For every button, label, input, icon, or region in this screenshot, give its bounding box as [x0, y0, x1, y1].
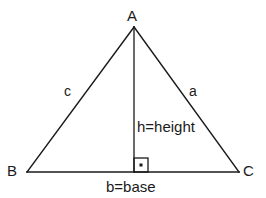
triangle-diagram: A B C c a h=height b=base — [0, 0, 266, 198]
triangle-side-a-line — [134, 27, 239, 172]
triangle-diagram-canvas — [0, 0, 266, 198]
side-label-a: a — [189, 84, 197, 98]
vertex-label-a: A — [127, 8, 137, 23]
height-label: h=height — [137, 119, 195, 134]
right-angle-marker-dot — [140, 164, 143, 167]
triangle-side-c-line — [27, 27, 134, 172]
vertex-label-b: B — [7, 163, 17, 178]
vertex-label-c: C — [243, 163, 254, 178]
side-label-c: c — [64, 84, 71, 98]
base-label: b=base — [106, 179, 156, 194]
